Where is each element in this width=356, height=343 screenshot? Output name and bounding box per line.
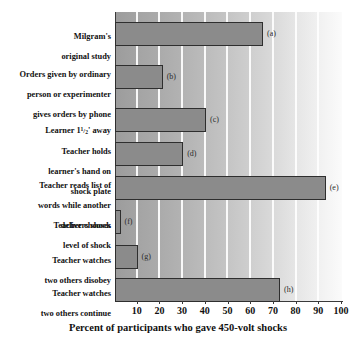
bar-tag-d: (d) bbox=[187, 150, 196, 158]
bar-e[interactable] bbox=[115, 176, 326, 200]
fraction-numerator: 1 bbox=[81, 126, 84, 132]
bar-tag-f: (f) bbox=[125, 218, 133, 226]
learner-prefix: Learner 1 bbox=[45, 126, 80, 135]
tick-mark-20 bbox=[159, 301, 160, 304]
cat-line: Teacher chooses bbox=[4, 221, 111, 231]
tick-mark-30 bbox=[182, 301, 183, 304]
bar-c[interactable] bbox=[115, 108, 206, 132]
x-tick-label-40: 40 bbox=[200, 305, 210, 317]
x-tick-label-90: 90 bbox=[313, 305, 323, 317]
bar-tag-h: (h) bbox=[284, 286, 293, 294]
tick-mark-10 bbox=[137, 301, 138, 304]
cat-line: Teacher watches bbox=[4, 289, 111, 299]
bar-h[interactable] bbox=[115, 278, 280, 302]
bar-a[interactable] bbox=[115, 22, 263, 46]
cat-line: Milgram's bbox=[4, 32, 111, 42]
cat-line: two others continue bbox=[4, 309, 111, 319]
tick-mark-90 bbox=[318, 301, 319, 304]
tick-mark-40 bbox=[205, 301, 206, 304]
x-tick-label-80: 80 bbox=[291, 305, 301, 317]
bar-d[interactable] bbox=[115, 142, 183, 166]
x-tick-label-100: 100 bbox=[334, 305, 349, 317]
bar-g[interactable] bbox=[115, 245, 138, 269]
cat-line: Teacher reads list of bbox=[4, 181, 111, 191]
bar-row: (d) bbox=[115, 142, 342, 166]
cat-line: Orders given by ordinary bbox=[4, 70, 111, 80]
bar-chart: (a) (b) (c) (d) (e) (f) (g) (h) Milgram'… bbox=[0, 0, 356, 343]
x-axis-title: Percent of participants who gave 450-vol… bbox=[0, 322, 356, 333]
x-tick-label-60: 60 bbox=[245, 305, 255, 317]
bar-row: (a) bbox=[115, 22, 342, 46]
cat-line: Teacher holds bbox=[4, 147, 111, 157]
learner-suffix: ' away bbox=[88, 126, 111, 135]
bar-tag-g: (g) bbox=[142, 253, 151, 261]
bar-row: (g) bbox=[115, 245, 342, 269]
bar-tag-e: (e) bbox=[330, 184, 339, 192]
tick-mark-100 bbox=[341, 301, 342, 304]
x-tick-label-20: 20 bbox=[154, 305, 164, 317]
bar-row: (e) bbox=[115, 176, 342, 200]
cat-line: Teacher watches bbox=[4, 256, 111, 266]
bar-row: (c) bbox=[115, 108, 342, 132]
cat-line: Learner 11/2' away bbox=[4, 124, 111, 137]
bar-row: (b) bbox=[115, 65, 342, 89]
bar-tag-b: (b) bbox=[167, 73, 176, 81]
bar-row: (h) bbox=[115, 278, 342, 302]
cat-line: words while another bbox=[4, 201, 111, 211]
bar-row: (f) bbox=[115, 210, 342, 234]
tick-mark-70 bbox=[273, 301, 274, 304]
cat-line: person or experimenter bbox=[4, 90, 111, 100]
x-tick-label-10: 10 bbox=[132, 305, 142, 317]
tick-mark-80 bbox=[296, 301, 297, 304]
bar-tag-c: (c) bbox=[210, 116, 219, 124]
fraction-one-half: 1/2 bbox=[81, 124, 88, 137]
tick-mark-50 bbox=[228, 301, 229, 304]
x-tick-label-30: 30 bbox=[177, 305, 187, 317]
tick-mark-60 bbox=[250, 301, 251, 304]
x-tick-label-50: 50 bbox=[223, 305, 233, 317]
bar-b[interactable] bbox=[115, 65, 163, 89]
x-tick-label-70: 70 bbox=[268, 305, 278, 317]
bar-tag-a: (a) bbox=[267, 30, 276, 38]
bar-f[interactable] bbox=[115, 210, 121, 234]
